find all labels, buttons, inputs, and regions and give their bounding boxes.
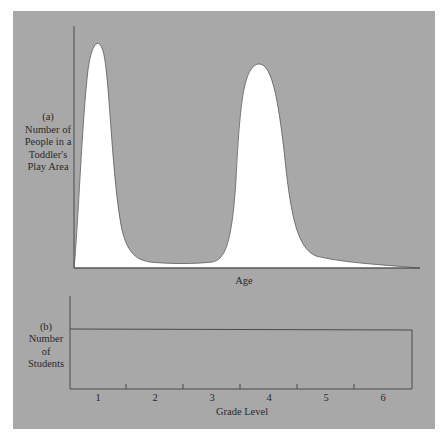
tick-label-3: 3 bbox=[209, 392, 214, 403]
tick-label-1: 1 bbox=[95, 392, 100, 403]
figure: (a) Number of People in a Toddler's Play… bbox=[0, 0, 446, 438]
tick-label-6: 6 bbox=[380, 392, 385, 403]
chart-b: 1 2 3 4 5 6 Grade Level (b) Number of St… bbox=[28, 296, 412, 417]
y-label-a-line2: People in a bbox=[25, 136, 72, 147]
y-label-b-line2: of bbox=[42, 346, 51, 357]
uniform-distribution-b bbox=[70, 329, 412, 389]
chart-a: (a) Number of People in a Toddler's Play… bbox=[25, 26, 420, 286]
x-label-b: Grade Level bbox=[216, 406, 268, 417]
panel-label-b: (b) bbox=[40, 321, 53, 333]
y-label-b-line1: Number bbox=[29, 333, 64, 344]
tick-label-5: 5 bbox=[323, 392, 328, 403]
x-label-a: Age bbox=[235, 275, 253, 286]
tick-label-2: 2 bbox=[152, 392, 157, 403]
panel-label-a: (a) bbox=[42, 111, 54, 123]
y-label-a-line4: Play Area bbox=[27, 161, 68, 172]
y-label-a-line1: Number of bbox=[25, 124, 71, 135]
y-label-b-line3: Students bbox=[28, 358, 64, 369]
x-ticks-b bbox=[126, 384, 354, 389]
y-label-a-line3: Toddler's bbox=[29, 149, 67, 160]
distribution-curve-a bbox=[74, 43, 420, 268]
tick-label-4: 4 bbox=[266, 392, 272, 403]
